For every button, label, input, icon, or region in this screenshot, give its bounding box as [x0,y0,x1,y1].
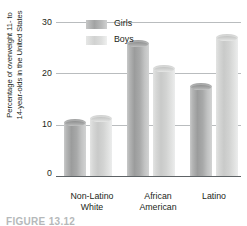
x-axis-label-latino: Latino [186,191,242,202]
y-tick-label-30: 30 [30,17,52,27]
legend-label-boys: Boys [114,34,134,44]
bar-cap-shade [191,85,211,90]
x-label-line-2: American [120,202,196,213]
bar-boys-african-american [153,68,175,176]
figure-container: Percentage of overweight 11- to 14-year-… [0,0,247,226]
x-label-line-1: African [120,191,196,202]
bar-boys-latino [216,37,238,176]
bar-cap-shade [65,121,85,126]
bar-girls-african-american [127,43,149,176]
bar-girls-latino [190,86,212,176]
legend-label-girls: Girls [114,18,132,28]
bar-body [64,122,86,176]
bar-body [153,68,175,176]
bar-body [127,43,149,176]
plot-area [56,22,241,176]
legend-swatch-girls-icon [86,20,107,29]
bar-body [216,37,238,176]
y-tick-label-0: 0 [30,168,52,178]
y-tick-label-20: 20 [30,68,52,78]
axis-baseline [56,176,241,177]
figure-caption: FIGURE 13.12 [6,216,75,226]
bar-body [190,86,212,176]
legend-swatch-boys-icon [86,36,107,45]
y-axis-title: Percentage of overweight 11- to 14-year-… [5,0,31,145]
y-tick-label-10: 10 [30,119,52,129]
bar-body [90,118,112,176]
bar-cap-shade [91,117,111,122]
bar-girls-non-latino-white [64,122,86,176]
y-axis-title-line-1: Percentage of overweight 11- to [5,0,15,145]
bar-cap-shade [217,36,237,41]
gridline-30 [56,22,241,23]
x-label-line-1: Latino [186,191,242,202]
x-axis-label-african-american: African American [120,191,196,212]
bar-boys-non-latino-white [90,118,112,176]
y-axis-title-line-2: 14-year-olds in the United States [15,0,25,145]
bar-cap-shade [154,67,174,72]
